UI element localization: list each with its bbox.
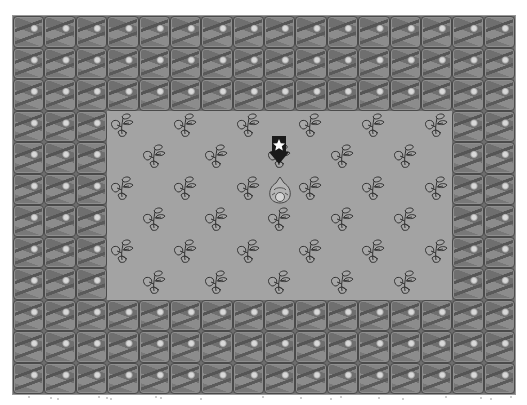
wall-tile [327,48,358,80]
floor-tile [421,237,452,269]
wall-tile [170,363,201,395]
wall-tile [264,79,295,111]
down-arrow-star-icon [269,135,289,165]
wall-tile [484,331,515,363]
plant-icon [141,269,169,298]
wall-tile [76,111,107,143]
wall-tile [295,300,326,332]
wall-tile [170,79,201,111]
wall-tile [107,16,138,48]
floor-tile [264,237,295,269]
wall-tile [13,237,44,269]
wall-tile [327,16,358,48]
floor-tile [233,237,264,269]
wall-tile [44,363,75,395]
floor-tile [170,174,201,206]
wall-tile [327,363,358,395]
plant-icon [329,143,357,172]
wall-tile [107,363,138,395]
wall-tile [327,79,358,111]
wall-tile [484,142,515,174]
wall-tile [452,331,483,363]
floor-tile [358,205,389,237]
wall-tile [484,363,515,395]
floor-tile [390,205,421,237]
wall-tile [139,300,170,332]
plant-icon [329,269,357,298]
wall-tile [44,300,75,332]
plant-icon [392,206,420,235]
wall-tile [452,79,483,111]
wall-tile [484,300,515,332]
wall-tile [358,331,389,363]
wall-tile [452,268,483,300]
plant-icon [297,112,325,141]
wall-tile [44,48,75,80]
wall-tile [107,48,138,80]
wall-tile [13,205,44,237]
floor-tile [170,268,201,300]
noise-dot [510,396,512,398]
wall-tile [233,363,264,395]
floor-tile [201,268,232,300]
wall-tile [390,48,421,80]
scan-noise [0,396,527,405]
floor-tile [264,205,295,237]
wall-tile [76,237,107,269]
wall-tile [390,300,421,332]
plant-icon [266,206,294,235]
plant-icon [329,206,357,235]
wall-tile [139,363,170,395]
wall-tile [452,363,483,395]
wall-tile [421,300,452,332]
plant-icon [235,112,263,141]
plant-icon [266,269,294,298]
floor-tile [139,237,170,269]
wall-tile [76,48,107,80]
floor-tile [421,174,452,206]
wall-tile [452,174,483,206]
plant-icon [235,238,263,267]
wall-tile [233,331,264,363]
floor-tile [390,111,421,143]
noise-dot [98,396,100,398]
floor-tile [327,237,358,269]
floor-tile [295,111,326,143]
floor-tile [295,142,326,174]
wall-tile [44,331,75,363]
wall-tile [233,16,264,48]
plant-icon [423,112,451,141]
floor-tile [358,174,389,206]
wall-tile [170,16,201,48]
wall-tile [358,16,389,48]
noise-dot [200,398,202,400]
wall-tile [76,331,107,363]
plant-icon [360,175,388,204]
floor-tile [170,237,201,269]
game-board [13,16,515,394]
wall-tile [295,48,326,80]
plant-icon [423,238,451,267]
wall-tile [358,79,389,111]
wall-tile [201,363,232,395]
wall-tile [484,268,515,300]
noise-dot [110,398,112,400]
wall-tile [390,16,421,48]
wall-tile [76,142,107,174]
wall-tile [44,142,75,174]
floor-tile [295,268,326,300]
wall-tile [44,268,75,300]
wall-tile [107,331,138,363]
plant-icon [203,269,231,298]
wall-tile [295,79,326,111]
wall-tile [139,79,170,111]
wall-tile [421,331,452,363]
wall-tile [484,174,515,206]
floor-tile [327,111,358,143]
wall-tile [484,111,515,143]
wall-tile [233,79,264,111]
wall-tile [201,16,232,48]
floor-tile [264,142,295,174]
wall-tile [452,48,483,80]
wall-tile [452,111,483,143]
